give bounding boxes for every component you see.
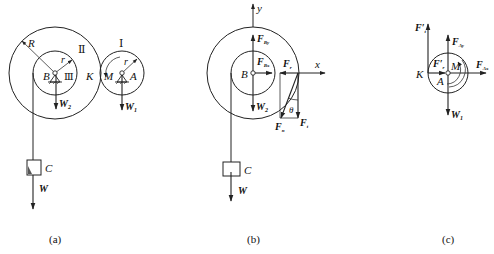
- label-M: M: [450, 60, 461, 72]
- label-Fr: Fr: [282, 58, 292, 70]
- label-FBy: FBy: [256, 33, 270, 45]
- label-r: r: [61, 54, 65, 65]
- caption-b: (b): [247, 233, 260, 246]
- label-wheel-II: Ⅱ: [78, 43, 85, 55]
- label-r-I: r: [124, 56, 128, 67]
- label-Ft: Ft: [299, 117, 309, 129]
- label-R: R: [27, 37, 35, 49]
- label-W2: W2: [59, 98, 71, 110]
- label-W1: W1: [125, 101, 137, 113]
- label-x: x: [314, 58, 320, 70]
- label-W2: W2: [256, 101, 268, 113]
- caption-c: (c): [442, 233, 455, 246]
- panel-a: R r Ⅱ Ⅲ B K W2 Ⅰ r M A: [9, 27, 144, 246]
- label-B: B: [43, 70, 50, 82]
- label-FAx: FAx: [475, 59, 489, 71]
- panel-b: y FBy FBx B W2 x Fr θ Ft Fn C W (b): [207, 2, 325, 246]
- panel-c: F′t F′r FAy FAx W1 M K A (c): [414, 22, 489, 246]
- label-wheel-I: Ⅰ: [119, 37, 123, 49]
- label-K: K: [415, 68, 424, 80]
- label-FBx: FBx: [256, 56, 270, 68]
- label-C: C: [244, 164, 252, 176]
- label-M: M: [103, 70, 114, 82]
- label-B: B: [241, 68, 248, 80]
- angle-theta-arc: [288, 98, 298, 100]
- label-Ft-prime: F′t: [414, 22, 426, 34]
- label-Fn: Fn: [274, 121, 285, 133]
- label-theta: θ: [289, 105, 294, 115]
- label-y: y: [256, 2, 262, 14]
- label-FAy: FAy: [451, 36, 465, 48]
- label-C: C: [45, 162, 53, 174]
- pin-A: [446, 71, 450, 75]
- radius-R-line: [22, 41, 55, 73]
- label-Fr-prime: F′r: [432, 58, 444, 70]
- caption-a: (a): [49, 233, 62, 246]
- label-W: W: [238, 185, 248, 196]
- label-K: K: [85, 70, 94, 82]
- mechanics-diagram: R r Ⅱ Ⅲ B K W2 Ⅰ r M A: [0, 0, 494, 254]
- label-A: A: [129, 70, 137, 82]
- pin-B: [251, 71, 255, 75]
- label-W: W: [39, 183, 49, 194]
- label-wheel-III: Ⅲ: [64, 71, 74, 82]
- label-A: A: [436, 75, 444, 87]
- pin-support-B: [48, 71, 62, 84]
- label-W1: W1: [451, 109, 463, 121]
